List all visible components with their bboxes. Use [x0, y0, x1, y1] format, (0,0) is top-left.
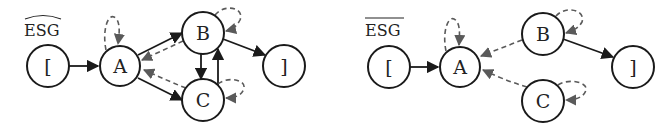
svg-text:C: C — [196, 89, 211, 111]
left-title: ESG — [24, 16, 61, 41]
edge-a-to-b — [138, 33, 182, 55]
svg-text:B: B — [536, 23, 550, 45]
widehat-accent — [25, 16, 61, 20]
edge-a-to-c — [138, 78, 182, 100]
left-title-text: ESG — [24, 21, 59, 40]
svg-text:[: [ — [44, 55, 51, 77]
svg-text:]: ] — [280, 55, 287, 77]
edge-a-self-loop — [445, 19, 460, 51]
svg-text:A: A — [112, 55, 127, 77]
left-node-c: C — [182, 79, 224, 121]
svg-text:A: A — [452, 56, 467, 78]
edge-b-to-end — [563, 39, 613, 57]
right-title-text: ESG — [365, 21, 400, 40]
right-diagram: ESG [ A B C — [365, 10, 654, 122]
svg-text:B: B — [196, 22, 210, 44]
edge-c-to-a — [144, 70, 186, 88]
svg-text:C: C — [536, 90, 551, 112]
left-node-start: [ — [27, 45, 69, 87]
left-node-b: B — [182, 12, 224, 54]
left-node-end: ] — [263, 45, 305, 87]
left-node-a: A — [100, 46, 140, 86]
left-solid-edges — [69, 33, 265, 100]
right-node-start: [ — [368, 46, 410, 88]
right-node-c: C — [522, 80, 564, 122]
edge-c-to-a — [483, 70, 527, 87]
edge-a-self-loop — [105, 17, 119, 50]
right-node-b: B — [522, 13, 564, 55]
svg-text:]: ] — [629, 56, 636, 78]
right-node-end: ] — [612, 46, 654, 88]
esg-comparison-figure: ESG [ A B — [0, 0, 672, 132]
svg-text:[: [ — [385, 56, 392, 78]
edge-b-to-end — [223, 39, 265, 55]
edge-b-to-a — [481, 40, 522, 56]
right-node-a: A — [440, 47, 480, 87]
left-diagram: ESG [ A B — [24, 8, 305, 121]
right-title: ESG — [365, 18, 404, 40]
